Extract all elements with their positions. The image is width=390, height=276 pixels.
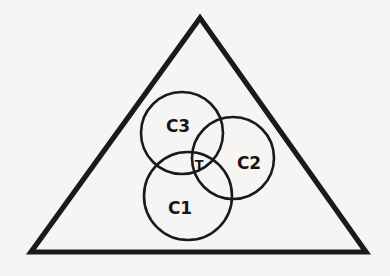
intersection-label-t: T — [195, 157, 204, 172]
circle-label-c3: C3 — [166, 116, 190, 136]
venn-triangle-figure: C3 C2 C1 T — [0, 0, 390, 276]
figure-canvas: C3 C2 C1 T — [0, 0, 390, 276]
figure-background — [0, 0, 390, 276]
circle-label-c2: C2 — [237, 153, 261, 173]
circle-label-c1: C1 — [168, 198, 192, 218]
